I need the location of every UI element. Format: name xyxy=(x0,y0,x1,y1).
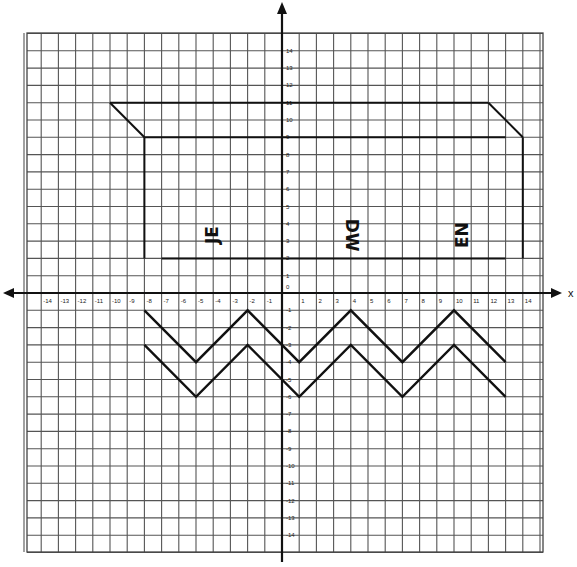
x-tick-label: -11 xyxy=(95,298,104,304)
x-tick-label: 11 xyxy=(473,298,480,304)
origin-label: 0 xyxy=(286,284,290,290)
y-tick-label: -4 xyxy=(286,359,292,365)
x-axis-label: x xyxy=(568,287,574,299)
x-tick-label: -9 xyxy=(129,298,135,304)
x-tick-label: 12 xyxy=(490,298,497,304)
y-tick-label: 12 xyxy=(286,82,293,88)
x-tick-label: -10 xyxy=(112,298,121,304)
x-tick-label: 1 xyxy=(301,298,305,304)
coordinate-plane: -14-13-12-11-10-9-8-7-6-5-4-3-2-11234567… xyxy=(0,0,577,567)
y-tick-label: -9 xyxy=(286,446,292,452)
y-tick-label: -14 xyxy=(286,532,295,538)
x-tick-label: -3 xyxy=(232,298,238,304)
y-tick-label: 13 xyxy=(286,65,293,71)
banner-letters-je: JE xyxy=(202,226,222,245)
x-tick-label: -2 xyxy=(250,298,256,304)
x-tick-label: -7 xyxy=(164,298,170,304)
x-tick-label: 9 xyxy=(439,298,443,304)
x-tick-label: 8 xyxy=(422,298,426,304)
banner-letters-dw: DW xyxy=(342,219,362,252)
x-tick-label: 6 xyxy=(387,298,391,304)
x-tick-label: -4 xyxy=(215,298,221,304)
zigzag-lower xyxy=(144,345,505,397)
x-tick-label: 14 xyxy=(525,298,532,304)
x-tick-label: 10 xyxy=(456,298,463,304)
y-tick-label: -3 xyxy=(286,342,292,348)
x-tick-label: -1 xyxy=(267,298,273,304)
x-tick-label: -8 xyxy=(146,298,152,304)
y-tick-label: -10 xyxy=(286,463,295,469)
x-tick-label: -5 xyxy=(198,298,204,304)
y-tick-label: -7 xyxy=(286,411,292,417)
y-tick-label: 10 xyxy=(286,117,293,123)
x-tick-label: 7 xyxy=(404,298,408,304)
y-tick-label: 14 xyxy=(286,48,293,54)
y-tick-label: -1 xyxy=(286,307,292,313)
y-tick-label: -2 xyxy=(286,325,292,331)
y-tick-label: -8 xyxy=(286,428,292,434)
x-tick-label: 2 xyxy=(318,298,322,304)
y-tick-label: -6 xyxy=(286,394,292,400)
x-tick-label: -14 xyxy=(43,298,52,304)
x-tick-label: 3 xyxy=(336,298,340,304)
x-tick-label: 4 xyxy=(353,298,357,304)
y-tick-label: -13 xyxy=(286,515,295,521)
axes xyxy=(3,2,562,562)
zigzag-upper xyxy=(144,310,505,362)
x-tick-label: 13 xyxy=(508,298,515,304)
y-axis-up-arrow-icon xyxy=(277,2,287,14)
x-tick-label: -6 xyxy=(181,298,187,304)
x-tick-label: 5 xyxy=(370,298,374,304)
x-axis-right-arrow-icon xyxy=(551,288,562,298)
banner-letters-en: EN xyxy=(452,222,472,248)
x-tick-label: -13 xyxy=(60,298,69,304)
y-tick-label: -11 xyxy=(286,480,295,486)
x-tick-label: -12 xyxy=(78,298,87,304)
y-tick-label: -12 xyxy=(286,498,295,504)
zigzag-lines xyxy=(144,310,505,397)
x-axis-left-arrow-icon xyxy=(3,288,14,298)
y-tick-label: -5 xyxy=(286,377,292,383)
